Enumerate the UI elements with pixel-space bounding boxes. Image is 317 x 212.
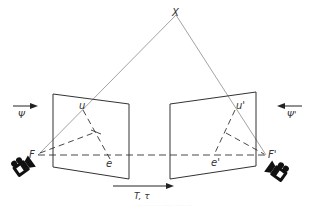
right-epipolar-line [214, 110, 235, 155]
left-dashed-ray [40, 132, 96, 153]
label-left-epipole: e [106, 159, 112, 169]
right-rotation-arrowhead [277, 103, 285, 109]
diagram-canvas [0, 0, 317, 212]
right-camera-icon [264, 157, 291, 183]
label-translation: T, τ [134, 192, 150, 201]
ray-x-to-f [38, 15, 176, 155]
epipolar-diagram: X F F' u u' e e' Ψ Ψ' T, τ ··· ···· ·· ·… [0, 0, 317, 212]
label-right-image-point: u' [236, 101, 245, 111]
ray-x-to-f-prime [176, 15, 266, 155]
label-right-focal: F' [268, 150, 277, 160]
left-image-plane [53, 94, 129, 179]
left-epipolar-line [83, 110, 110, 159]
translation-arrowhead [166, 183, 174, 189]
left-tick [91, 130, 101, 134]
figure-caption: ··· ···· ·· ··· ······ ·· ······ ···· [70, 203, 260, 208]
label-right-epipole: e' [211, 158, 220, 168]
label-left-image-point: u [79, 101, 85, 111]
label-left-rotation: Ψ [18, 111, 25, 120]
label-world-point: X [172, 8, 179, 18]
label-left-focal: F [29, 150, 35, 160]
label-right-rotation: Ψ' [287, 111, 297, 120]
left-rotation-arrowhead [30, 103, 38, 109]
